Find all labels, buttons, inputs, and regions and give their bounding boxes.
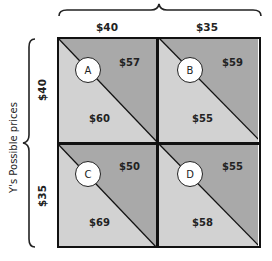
cell-a-lower-value: $60: [89, 113, 110, 124]
cell-a-triangles: [57, 37, 157, 142]
cell-c-triangles: [57, 143, 157, 248]
cell-a: A $57 $60: [57, 37, 157, 142]
cell-a-upper-value: $57: [119, 57, 140, 68]
cell-c: C $50 $69: [57, 143, 157, 248]
cell-c-lower-value: $69: [89, 217, 110, 228]
cell-d-upper-value: $55: [222, 161, 243, 172]
cell-d-lower-value: $58: [192, 217, 213, 228]
row-label-2: $35: [32, 143, 52, 248]
row-label-1: $40: [32, 37, 52, 142]
cell-c-upper-value: $50: [119, 161, 140, 172]
cell-d: D $55 $58: [158, 143, 258, 248]
cell-b-triangles: [158, 37, 258, 142]
cell-b-upper-value: $59: [222, 57, 243, 68]
cell-c-marker: C: [75, 161, 101, 187]
column-label-2: $35: [157, 21, 257, 33]
cell-b: B $59 $55: [158, 37, 258, 142]
column-label-1: $40: [57, 21, 157, 33]
column-brace: [57, 3, 263, 17]
cell-b-lower-value: $55: [192, 113, 213, 124]
grid-horizontal-divider: [57, 142, 261, 145]
cell-a-marker: A: [75, 57, 101, 83]
row-axis-title: Y's Possible prices: [2, 92, 24, 202]
cell-d-marker: D: [177, 161, 203, 187]
cell-d-triangles: [158, 143, 258, 248]
cell-b-marker: B: [177, 57, 203, 83]
